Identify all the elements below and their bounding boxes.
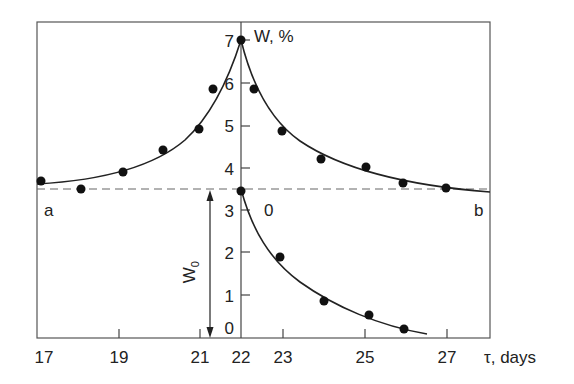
annotation-a: a [44, 202, 53, 219]
y-tick-label: 5 [214, 118, 234, 135]
x-tick-label: 22 [226, 349, 256, 366]
x-tick-label: 17 [29, 349, 59, 366]
x-tick-label: 19 [104, 349, 134, 366]
x-tick-label: 23 [268, 349, 298, 366]
y-ticks [241, 40, 250, 295]
y-axis-label: W, % [254, 28, 294, 45]
annotation-w0: W0 [181, 261, 201, 283]
x-tick-label: 25 [350, 349, 380, 366]
x-tick-label: 21 [185, 349, 215, 366]
y-tick-label: 4 [214, 161, 234, 178]
w0-arrow [207, 190, 214, 338]
points-falling [250, 85, 451, 193]
y-tick-label: 7 [214, 33, 234, 50]
y-tick-label: 2 [214, 245, 234, 262]
annotation-b: b [474, 202, 483, 219]
curve-rising [37, 40, 241, 184]
annotation-origin: 0 [264, 202, 273, 219]
chart-canvas [0, 0, 574, 384]
points-lower [237, 187, 409, 334]
y-tick-label: 0 [214, 320, 234, 337]
x-ticks [119, 329, 447, 338]
x-tick-label: 27 [432, 349, 462, 366]
y-tick-label: 6 [214, 76, 234, 93]
x-axis-label: τ, days [484, 349, 536, 366]
plot-frame [37, 22, 490, 338]
y-tick-label: 1 [214, 288, 234, 305]
y-tick-label: 3 [214, 203, 234, 220]
